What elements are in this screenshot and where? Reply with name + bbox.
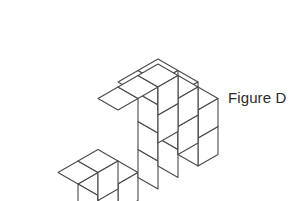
figure-label: Figure D [228, 90, 286, 105]
figure-canvas: Figure D [0, 0, 294, 201]
